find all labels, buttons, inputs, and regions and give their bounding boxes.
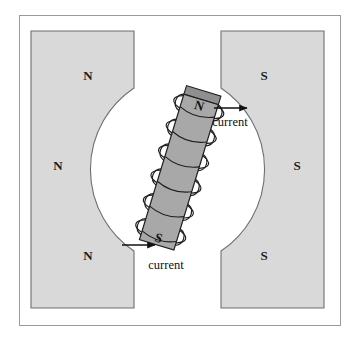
current-label-bottom: current — [148, 258, 184, 272]
right-pole-label-middle: S — [293, 158, 300, 173]
left-pole-label-middle: N — [53, 158, 63, 173]
left-pole-label-top: N — [83, 68, 93, 83]
right-pole-label-top: S — [260, 68, 267, 83]
magnet-solenoid-diagram: N N N S S S — [0, 0, 355, 338]
current-label-top: current — [212, 115, 248, 129]
left-pole-label-bottom: N — [83, 248, 93, 263]
right-pole-label-bottom: S — [260, 248, 267, 263]
diagram-canvas: N N N S S S — [0, 0, 355, 338]
